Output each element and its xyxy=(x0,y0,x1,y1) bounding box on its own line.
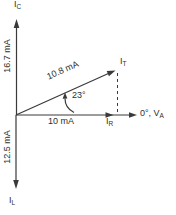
phasor-diagram: IC IL IR IT 0°, VA 16.7 mA 12.5 mA 10 mA… xyxy=(0,0,176,215)
it-arrowhead xyxy=(107,71,116,77)
il-magnitude-label: 12.5 mA xyxy=(3,127,13,167)
it-vector-line xyxy=(16,73,110,115)
reference-axis-label-main: 0°, V xyxy=(140,108,160,118)
il-label-sub: L xyxy=(12,199,16,206)
it-label-sub: T xyxy=(123,60,127,67)
angle-label: 23° xyxy=(72,91,86,101)
reference-axis-label: 0°, VA xyxy=(140,109,164,119)
ir-magnitude-label: 10 mA xyxy=(48,117,74,127)
ic-arrowhead xyxy=(14,19,20,28)
ic-magnitude-label: 16.7 mA xyxy=(3,36,13,76)
it-label: IT xyxy=(120,57,127,67)
ir-label: IR xyxy=(106,117,113,127)
ir-label-sub: R xyxy=(109,120,114,127)
il-label: IL xyxy=(9,196,15,206)
ic-label-sub: C xyxy=(17,3,22,10)
reference-axis-label-sub: A xyxy=(160,112,164,119)
il-arrowhead xyxy=(13,180,19,189)
ic-label: IC xyxy=(14,0,21,10)
va-axis-arrowhead xyxy=(129,112,137,118)
